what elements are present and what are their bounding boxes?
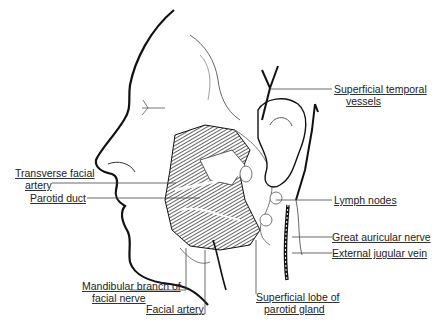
label-text: facial nerve bbox=[92, 292, 146, 304]
label-text: Lymph nodes bbox=[334, 194, 397, 206]
label-text: Superficial lobe of bbox=[256, 291, 339, 303]
label-parotid-duct: Parotid duct bbox=[30, 192, 86, 204]
anatomy-diagram: Superficial temporal vessels Transverse … bbox=[0, 0, 439, 326]
label-text: External jugular vein bbox=[332, 247, 427, 259]
label-text: Facial artery bbox=[146, 303, 204, 315]
label-great-auricular-nerve: Great auricular nerve bbox=[332, 231, 431, 243]
label-text: Mandibular branch of bbox=[82, 280, 181, 292]
face-illustration bbox=[0, 0, 439, 326]
label-text: parotid gland bbox=[264, 303, 325, 315]
label-external-jugular-vein: External jugular vein bbox=[332, 247, 427, 259]
label-facial-artery: Facial artery bbox=[146, 303, 204, 315]
label-text: artery bbox=[25, 179, 52, 191]
label-mandibular-branch: Mandibular branch of facial nerve bbox=[82, 280, 181, 304]
label-text: Great auricular nerve bbox=[332, 231, 431, 243]
label-lymph-nodes: Lymph nodes bbox=[334, 194, 397, 206]
label-superficial-temporal-vessels: Superficial temporal vessels bbox=[334, 83, 427, 107]
label-text: Superficial temporal bbox=[334, 83, 427, 95]
masseter-region bbox=[165, 125, 260, 250]
label-text: vessels bbox=[346, 95, 381, 107]
label-superficial-lobe: Superficial lobe of parotid gland bbox=[256, 291, 339, 315]
label-text: Transverse facial bbox=[15, 167, 95, 179]
ear bbox=[258, 99, 306, 187]
label-text: Parotid duct bbox=[30, 192, 86, 204]
label-transverse-facial-artery: Transverse facial artery bbox=[15, 167, 95, 191]
